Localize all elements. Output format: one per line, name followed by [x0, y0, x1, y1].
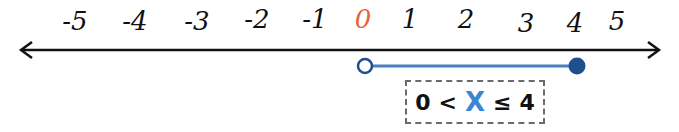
tick-label-zero: 0	[355, 4, 372, 34]
tick-label: -1	[302, 4, 327, 34]
open-circle-endpoint	[358, 59, 372, 73]
tick-label: -3	[184, 6, 209, 36]
tick-label: 4	[566, 8, 584, 38]
inequality-op1: <	[439, 90, 457, 115]
inequality-left: 0	[415, 90, 430, 115]
inequality-op2: ≤	[493, 90, 511, 115]
closed-circle-endpoint	[569, 58, 586, 75]
inequality-variable: X	[465, 87, 485, 117]
inequality-box: 0 < X ≤ 4	[405, 80, 545, 124]
tick-label: -5	[62, 6, 87, 36]
tick-label: 2	[457, 4, 475, 34]
tick-labels: -5 -4 -3 -2 -1 0 1 2 3 4 5	[62, 4, 625, 38]
tick-label: 3	[518, 8, 535, 38]
number-line-diagram: -5 -4 -3 -2 -1 0 1 2 3 4 5	[0, 0, 679, 132]
inequality-right: 4	[519, 90, 534, 115]
tick-label: -2	[244, 4, 269, 34]
tick-label: -4	[122, 6, 147, 36]
tick-label: 1	[402, 4, 419, 34]
tick-label: 5	[609, 6, 626, 36]
